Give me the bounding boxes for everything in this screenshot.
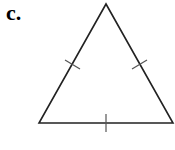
triangle-diagram bbox=[0, 0, 175, 150]
equilateral-triangle bbox=[39, 4, 173, 123]
tick-mark-left-side bbox=[65, 60, 80, 69]
tick-mark-right-side bbox=[132, 60, 147, 69]
